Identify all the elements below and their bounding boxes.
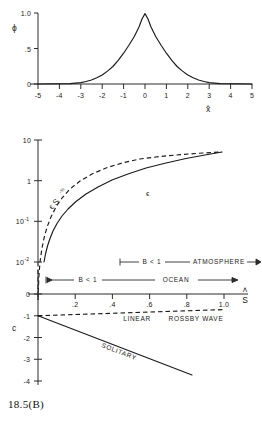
mid-y-label-1: 1 (27, 178, 31, 185)
epsilon-s-half-curve-label-group: ϵ S -½ (45, 185, 70, 211)
figure-root: 1.0 .5 0 ϕ -5 -4 -3 -2 -1 0 1 2 3 (0, 0, 262, 422)
epsilon-s-half-curve-label-exp: -½ (57, 185, 66, 194)
annotation-atmosphere-band: B < 1 ATMOSPHERE (120, 258, 261, 265)
top-y-axis-title: ϕ (12, 23, 17, 33)
mid-y-label-1e-2-exp: -2 (25, 256, 30, 262)
top-x-label--4: -4 (56, 92, 63, 99)
bottom-y-label-0: 0 (26, 291, 30, 298)
mid-y-label-10: 10 (23, 137, 31, 144)
figure-caption: 18.5(B) (8, 398, 44, 410)
bottom-x-axis-title-group: ˄ S (242, 285, 248, 305)
annotation-ocean-band: B < 1 OCEAN (46, 276, 238, 283)
top-x-label--1: -1 (120, 92, 127, 99)
bottom-x-label-08: .8 (184, 301, 190, 308)
top-x-label-2: 2 (186, 92, 190, 99)
top-x-label--3: -3 (77, 92, 84, 99)
linear-label: LINEAR (123, 315, 151, 322)
top-x-label--5: -5 (35, 92, 42, 99)
top-x-label-3: 3 (207, 92, 211, 99)
atmosphere-band-right-label: ATMOSPHERE (193, 258, 245, 265)
rossby-wave-label: ROSSBY WAVE (169, 315, 224, 322)
chart-soliton-profile: 1.0 .5 0 ϕ -5 -4 -3 -2 -1 0 1 2 3 (12, 10, 254, 114)
atmosphere-band-arrow-icon (256, 259, 261, 265)
figure-svg: 1.0 .5 0 ϕ -5 -4 -3 -2 -1 0 1 2 3 (0, 0, 262, 422)
top-x-label-5: 5 (250, 92, 254, 99)
epsilon-s-half-curve-label: ϵ S (47, 197, 61, 211)
ocean-band-right-label: OCEAN (163, 276, 190, 283)
bottom-y-label--2: -2 (23, 335, 30, 342)
epsilon-curve (44, 152, 222, 262)
bottom-y-label--1: -1 (23, 313, 30, 320)
solitary-label-group: SOLITARY (101, 341, 138, 361)
top-x-label-0: 0 (143, 92, 147, 99)
bottom-y-label--4: -4 (23, 378, 30, 385)
epsilon-curve-label: ϵ (146, 189, 150, 198)
soliton-curve (38, 14, 252, 84)
mid-y-label-1e-1-exp: -1 (25, 216, 30, 222)
top-x-axis-title: x̂ (206, 104, 211, 114)
mid-y-label-1e-2: 10 (16, 259, 24, 266)
top-y-label-0: 0 (27, 81, 31, 88)
top-x-label-1: 1 (164, 92, 168, 99)
solitary-label: SOLITARY (101, 341, 138, 361)
bottom-x-label-10: 1.0 (219, 301, 229, 308)
chart-phase-speed-vs-s: B < 1 OCEAN .2 .4 .6 .8 1.0 ˄ S (12, 270, 248, 385)
mid-y-label-1e-2-group: 10 -2 (16, 256, 30, 266)
s-hat-caret-icon: ˄ (243, 285, 248, 295)
ocean-band-left-label: B < 1 (79, 276, 98, 283)
top-x-label--2: -2 (99, 92, 106, 99)
bottom-y-axis-title: c (12, 323, 17, 333)
bottom-x-axis-title: S (242, 295, 248, 305)
bottom-x-label-04: .4 (109, 301, 115, 308)
top-x-label-4: 4 (229, 92, 233, 99)
bottom-y-label--3: -3 (23, 356, 30, 363)
chart-epsilon-vs-s-log: 10 1 10 -1 10 -2 ϵ ϵ S -½ (16, 137, 261, 300)
bottom-x-label-06: .6 (146, 301, 152, 308)
mid-y-label-1e-1-group: 10 -1 (16, 216, 30, 226)
ocean-band-arrow-icon (232, 278, 238, 283)
atmosphere-band-left-label: B < 1 (143, 258, 162, 265)
top-y-label-1: 1.0 (21, 10, 31, 17)
bottom-x-label-02: .2 (72, 301, 78, 308)
top-y-label-05: .5 (25, 46, 31, 53)
mid-y-label-1e-1: 10 (16, 218, 24, 225)
epsilon-s-half-curve (38, 152, 222, 300)
